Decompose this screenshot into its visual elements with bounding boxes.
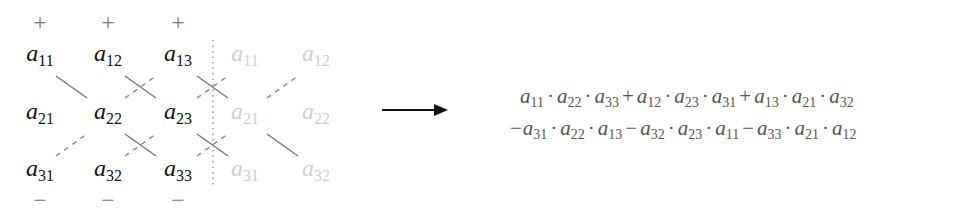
- formula-term: a13: [598, 116, 623, 140]
- multiply-dot: ·: [584, 84, 591, 108]
- plus-sign: +: [171, 10, 185, 34]
- matrix-element: a11: [26, 41, 53, 69]
- formula-term: a32: [640, 116, 665, 140]
- matrix-element: a13: [164, 41, 192, 69]
- formula-term: a32: [829, 84, 854, 108]
- operator-sign: −: [742, 116, 754, 140]
- formula-term: a13: [754, 84, 779, 108]
- minus-sign: −: [101, 188, 115, 208]
- multiply-dot: ·: [664, 84, 671, 108]
- operator-sign: +: [739, 84, 751, 108]
- minus-sign: −: [171, 188, 185, 208]
- ghost-element: a12: [302, 41, 330, 69]
- formula-term: a23: [678, 116, 703, 140]
- ghost-element: a11: [231, 41, 258, 69]
- formula-term: a12: [637, 84, 662, 108]
- matrix-element: a21: [26, 99, 54, 127]
- formula-term: a22: [557, 84, 582, 108]
- formula-term: a22: [560, 116, 585, 140]
- multiply-dot: ·: [588, 116, 595, 140]
- minus-sign: −: [33, 188, 47, 208]
- right-arrow-icon: [382, 104, 448, 116]
- operator-sign: −: [625, 116, 637, 140]
- multiply-dot: ·: [702, 84, 709, 108]
- formula-term: a12: [832, 116, 857, 140]
- matrix-element: a32: [94, 156, 122, 184]
- matrix-element: a22: [94, 99, 122, 127]
- multiply-dot: ·: [785, 116, 792, 140]
- formula-term: a11: [520, 84, 544, 108]
- formula-term: a21: [792, 84, 817, 108]
- plus-sign: +: [101, 10, 115, 34]
- formula-term: a23: [674, 84, 699, 108]
- formula-term: a31: [523, 116, 548, 140]
- formula-term: a33: [757, 116, 782, 140]
- formula-line-positive: a11·a22·a33+a12·a23·a31+a13·a21·a32: [520, 84, 854, 111]
- multiply-dot: ·: [819, 84, 826, 108]
- matrix-element: a12: [94, 41, 122, 69]
- formula-term: a33: [594, 84, 619, 108]
- matrix-element: a31: [26, 156, 54, 184]
- ghost-element: a21: [231, 99, 259, 127]
- operator-sign: −: [510, 116, 522, 140]
- multiply-dot: ·: [822, 116, 829, 140]
- formula-term: a21: [795, 116, 820, 140]
- multiply-dot: ·: [705, 116, 712, 140]
- multiply-dot: ·: [547, 84, 554, 108]
- ghost-element: a31: [231, 156, 259, 184]
- plus-sign: +: [33, 10, 47, 34]
- formula-line-negative: −a31·a22·a13−a32·a23·a11−a33·a21·a12: [510, 116, 857, 143]
- multiply-dot: ·: [782, 84, 789, 108]
- matrix-element: a33: [164, 156, 192, 184]
- multiply-dot: ·: [550, 116, 557, 140]
- formula-term: a31: [712, 84, 737, 108]
- ghost-element: a22: [302, 99, 330, 127]
- operator-sign: +: [622, 84, 634, 108]
- formula-term: a11: [715, 116, 739, 140]
- matrix-element: a23: [164, 99, 192, 127]
- ghost-element: a32: [302, 156, 330, 184]
- multiply-dot: ·: [668, 116, 675, 140]
